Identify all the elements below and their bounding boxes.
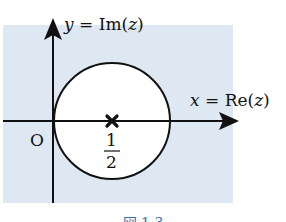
origin-label: O [30,130,44,150]
x-axis-label: x = Re(z) [190,90,270,110]
center-label-numerator: 1 [106,130,117,150]
complex-plane-diagram: y = Im(z) x = Re(z) O 1 2 [0,0,286,222]
center-label-denominator: 2 [106,152,117,172]
y-axis-label: y = Im(z) [63,14,144,34]
figure-caption: 図 1.3 [0,212,286,222]
